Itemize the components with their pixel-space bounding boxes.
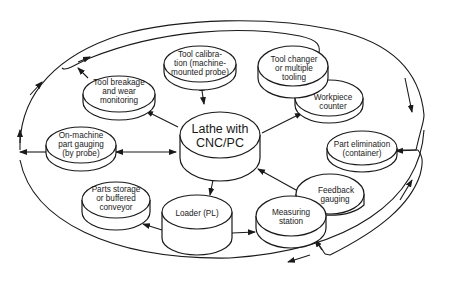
- tool-changer-line3: tooling: [282, 73, 307, 82]
- center-label-line2: CNC/PC: [196, 136, 244, 150]
- part-elimination-line1: Part elimination: [334, 140, 391, 149]
- parts-storage-line1: Parts storage: [92, 185, 141, 194]
- tool-breakage-line3: monitoring: [100, 96, 139, 105]
- tool-calibration-line2: tion (machine-: [174, 59, 226, 68]
- arrow-top-left-1: [30, 82, 42, 95]
- measuring-station-line2: station: [279, 217, 304, 226]
- center-label-line1: Lathe with: [192, 122, 249, 136]
- tool-changer-line2: or multiple: [275, 64, 313, 73]
- on-machine-gauging-line2: part gauging: [58, 140, 104, 149]
- node-tool-changer: Tool changer or multiple tooling: [258, 46, 328, 98]
- link-center-breakage: [146, 111, 178, 127]
- link-center-loader: [210, 180, 213, 195]
- arrow-breakage-to-loop: [78, 68, 88, 78]
- node-loader: Loader (PL): [162, 195, 232, 255]
- node-tool-breakage: Tool breakage and wear monitoring: [83, 76, 155, 120]
- tool-calibration-line3: mounted probe): [171, 68, 229, 77]
- measuring-station-line1: Measuring: [272, 208, 311, 217]
- parts-storage-line2: or buffered: [96, 194, 136, 203]
- arrow-right-down: [405, 78, 412, 112]
- on-machine-gauging-line3: (by probe): [62, 149, 100, 158]
- part-elimination-line2: (container): [342, 149, 381, 158]
- link-feedback-center: [258, 169, 296, 190]
- flow-diagram: Feedback gauging Workpiece counter Tool …: [0, 0, 456, 281]
- node-parts-storage: Parts storage or buffered conveyor: [82, 182, 150, 230]
- node-on-machine-gauging: On-machine part gauging (by probe): [46, 127, 116, 171]
- node-measuring-station: Measuring station: [256, 196, 326, 248]
- loader-label: Loader (PL): [175, 209, 219, 218]
- link-loader-storage: [143, 224, 162, 230]
- node-center-lathe: Lathe with CNC/PC: [180, 112, 260, 181]
- branch-right: [396, 115, 424, 150]
- feedback-gauging-line1: Feedback: [318, 186, 355, 195]
- workpiece-counter-line1: Workpiece: [314, 93, 353, 102]
- feedback-gauging-line2: gauging: [320, 195, 350, 204]
- link-loader-measuring: [232, 232, 255, 233]
- tool-breakage-line2: and wear: [102, 87, 136, 96]
- tool-changer-line1: Tool changer: [271, 55, 318, 64]
- node-part-elimination: Part elimination (container): [327, 131, 397, 172]
- tool-calibration-line1: Tool calibra-: [178, 50, 222, 59]
- tool-breakage-line1: Tool breakage: [93, 78, 145, 87]
- workpiece-counter-line2: counter: [319, 102, 347, 111]
- arrow-bottom-left: [288, 255, 310, 262]
- link-center-workpiece: [262, 113, 302, 133]
- node-tool-calibration: Tool calibra- tion (machine- mounted pro…: [164, 46, 236, 90]
- on-machine-gauging-line1: On-machine: [59, 131, 104, 140]
- parts-storage-line3: conveyor: [99, 203, 132, 212]
